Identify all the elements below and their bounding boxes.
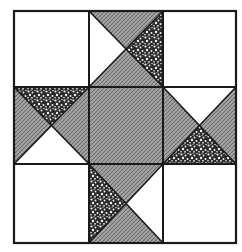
corner-square-bottom-right bbox=[163, 164, 236, 243]
star-point-right bbox=[163, 87, 236, 164]
star-point-left bbox=[14, 87, 89, 164]
corner-square-top-right bbox=[163, 11, 236, 87]
corner-square-bottom-left bbox=[14, 164, 89, 243]
corner-square-top-left bbox=[14, 11, 89, 87]
center-square bbox=[89, 87, 163, 164]
quilt-block bbox=[0, 0, 242, 252]
star-point-top bbox=[89, 11, 163, 87]
star-point-bottom bbox=[89, 164, 163, 243]
